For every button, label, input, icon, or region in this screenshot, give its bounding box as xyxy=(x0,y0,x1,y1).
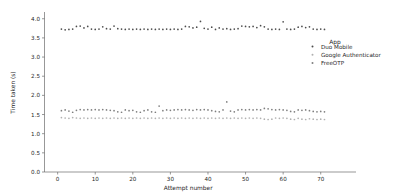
data-point xyxy=(218,27,220,29)
data-point xyxy=(170,29,172,31)
data-point xyxy=(143,110,145,112)
x-tick-label: 0 xyxy=(56,176,60,182)
data-point xyxy=(181,28,183,30)
data-point xyxy=(316,29,318,31)
x-tick-label: 70 xyxy=(317,176,325,182)
y-tick-label: 1.0 xyxy=(31,131,40,137)
data-point xyxy=(230,110,232,112)
data-point xyxy=(245,109,247,111)
data-point xyxy=(271,29,273,31)
y-tick-label: 3.0 xyxy=(31,54,40,60)
data-point xyxy=(233,117,235,119)
legend: AppDuo MobileGoogle AuthenticatorFreeOTP xyxy=(312,39,382,66)
data-point xyxy=(290,118,292,120)
data-point xyxy=(68,29,70,31)
data-point xyxy=(309,110,311,112)
data-point xyxy=(312,118,314,120)
data-point xyxy=(102,26,104,28)
data-point xyxy=(106,117,108,119)
data-point xyxy=(211,26,213,28)
data-point xyxy=(290,29,292,31)
y-tick-label: 0.5 xyxy=(31,150,40,156)
data-point xyxy=(136,111,138,113)
data-point xyxy=(177,29,179,31)
data-point xyxy=(260,109,262,111)
data-point xyxy=(64,117,66,119)
data-point xyxy=(271,118,273,120)
data-point xyxy=(91,28,93,30)
data-point xyxy=(132,109,134,111)
y-tick-label: 1.5 xyxy=(31,112,40,118)
data-point xyxy=(94,109,96,111)
x-axis-ticks: 010203040506070 xyxy=(56,172,325,182)
data-point xyxy=(68,118,70,120)
data-point xyxy=(294,111,296,113)
data-point xyxy=(207,109,209,111)
data-point xyxy=(76,26,78,28)
y-axis-label: Time taken (s) xyxy=(10,71,16,114)
data-point xyxy=(106,109,108,111)
data-point xyxy=(72,28,74,30)
legend-marker-icon xyxy=(312,46,314,48)
data-point xyxy=(147,118,149,120)
y-tick-label: 3.5 xyxy=(31,35,40,41)
data-point xyxy=(286,109,288,111)
data-point xyxy=(166,109,168,111)
data-point xyxy=(79,118,81,120)
data-point xyxy=(94,118,96,120)
data-point xyxy=(181,109,183,111)
data-point xyxy=(233,111,235,113)
data-point xyxy=(230,29,232,31)
legend-marker-icon xyxy=(312,62,314,64)
data-point xyxy=(305,109,307,111)
data-point xyxy=(203,117,205,119)
y-tick-label: 2.0 xyxy=(31,92,40,98)
data-point xyxy=(106,28,108,30)
data-point xyxy=(61,28,63,30)
data-point xyxy=(128,117,130,119)
data-point xyxy=(226,117,228,119)
data-point xyxy=(173,117,175,119)
data-point xyxy=(136,117,138,119)
data-point xyxy=(121,117,123,119)
data-point xyxy=(147,29,149,31)
y-tick-label: 0.0 xyxy=(31,169,40,175)
data-point xyxy=(117,118,119,120)
data-point xyxy=(113,25,115,27)
data-point xyxy=(237,118,239,120)
data-point xyxy=(98,28,100,30)
data-point xyxy=(166,117,168,119)
data-point xyxy=(151,28,153,30)
data-point xyxy=(139,29,141,31)
data-point xyxy=(124,109,126,111)
data-point xyxy=(222,28,224,30)
x-tick-label: 20 xyxy=(129,176,137,182)
y-tick-label: 4.0 xyxy=(31,16,40,22)
data-point xyxy=(260,25,262,27)
x-tick-label: 10 xyxy=(92,176,100,182)
data-point xyxy=(124,29,126,31)
data-point xyxy=(256,27,258,29)
data-point xyxy=(267,108,269,110)
data-point xyxy=(237,28,239,30)
data-point xyxy=(72,111,74,113)
data-point xyxy=(91,117,93,119)
data-point xyxy=(297,109,299,111)
data-point xyxy=(252,118,254,120)
data-point xyxy=(128,110,130,112)
data-point xyxy=(200,118,202,120)
x-tick-label: 60 xyxy=(280,176,288,182)
data-point xyxy=(264,26,266,28)
data-point xyxy=(61,117,63,119)
data-point xyxy=(79,109,81,111)
data-point xyxy=(316,111,318,113)
data-point xyxy=(91,109,93,111)
data-point xyxy=(222,118,224,120)
data-point xyxy=(143,117,145,119)
data-point xyxy=(245,118,247,120)
data-point xyxy=(305,27,307,29)
data-point xyxy=(309,118,311,120)
data-point xyxy=(83,27,85,29)
data-point xyxy=(158,105,160,107)
data-point xyxy=(192,118,194,120)
